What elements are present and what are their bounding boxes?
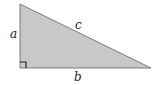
side-label-a: a: [10, 27, 17, 41]
triangle-shape: [20, 4, 151, 68]
side-label-c: c: [75, 18, 82, 32]
right-triangle-diagram: a c b: [0, 0, 163, 85]
side-label-b: b: [74, 70, 82, 84]
